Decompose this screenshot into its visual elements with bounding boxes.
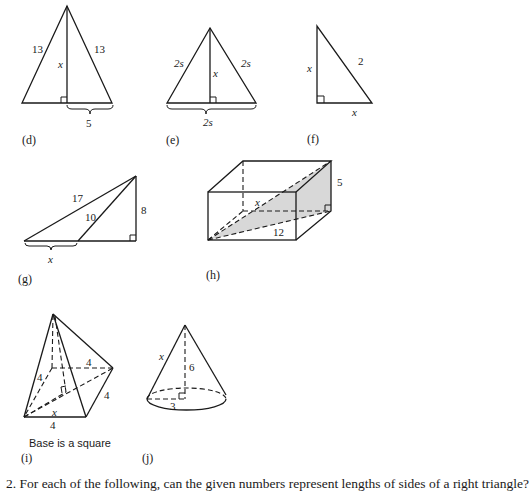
label-i-slant: 4 [37, 371, 43, 383]
question-2: 2. For each of the following, can the gi… [6, 476, 529, 492]
caption-e: (e) [166, 133, 179, 147]
caption-g: (g) [18, 272, 32, 286]
figure-g: 17 10 8 x (g) [18, 176, 147, 286]
label-e-right: 2s [241, 57, 251, 69]
label-d-left: 13 [32, 43, 44, 55]
label-j-height: 6 [189, 361, 195, 373]
label-g-base-segment: x [47, 253, 53, 265]
label-g-long: 17 [72, 192, 84, 204]
label-i-half-diagonal: x [51, 406, 57, 418]
label-f-vertical: x [306, 62, 312, 74]
label-h-base-diagonal: 12 [273, 226, 284, 238]
label-j-slant: x [158, 350, 164, 362]
label-i-base-right: 4 [104, 389, 110, 401]
label-g-inner: 10 [85, 211, 97, 223]
caption-i: (i) [21, 451, 32, 465]
label-f-horizontal: x [351, 106, 357, 118]
caption-j: (j) [142, 451, 153, 465]
label-e-base: 2s [203, 116, 213, 128]
label-i-base-front: 4 [50, 419, 56, 431]
label-j-radius: 3 [170, 400, 176, 412]
base-note: Base is a square [29, 437, 111, 449]
caption-f: (f) [307, 132, 319, 146]
exercise-figures: 13 13 x 5 (d) 2s 2s x 2s (e) x 2 x (f) 1… [0, 0, 488, 470]
label-e-height: x [212, 67, 218, 79]
figure-f: x 2 x (f) [306, 26, 372, 146]
label-d-right: 13 [94, 43, 106, 55]
label-h-height: 5 [337, 176, 343, 188]
figure-d: 13 13 x 5 (d) [22, 6, 113, 147]
figure-e: 2s 2s x 2s (e) [166, 28, 256, 147]
label-h-space-diagonal: x [254, 196, 260, 208]
figure-h: 5 12 x (h) [206, 161, 343, 282]
label-d-height: x [57, 58, 63, 70]
caption-d: (d) [22, 133, 36, 147]
label-e-left: 2s [174, 57, 184, 69]
label-d-half-base: 5 [86, 117, 92, 129]
caption-h: (h) [206, 268, 220, 282]
label-f-hypotenuse: 2 [358, 55, 364, 67]
label-g-height: 8 [141, 204, 147, 216]
label-i-base-back: 4 [86, 356, 92, 368]
figure-j: x 6 3 (j) [142, 325, 226, 465]
